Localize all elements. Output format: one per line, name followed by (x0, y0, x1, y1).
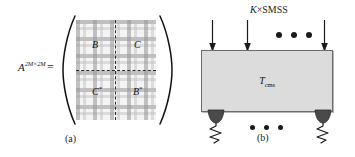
structure-block: Tcms (201, 50, 333, 112)
matrix-block-label-top-left: B (92, 40, 98, 50)
matrix-equation-label: A2M×2M (18, 60, 45, 73)
spring-support-icon (206, 109, 226, 145)
load-arrow-ellipsis (276, 30, 312, 40)
spring-support-icon (313, 109, 333, 145)
matrix-block-label-bottom-right: B* (133, 86, 143, 97)
figure-container: A2M×2M = B C C* B* (a) K×SMSS (0, 0, 355, 157)
equals-sign: = (47, 60, 54, 75)
load-arrow-down-icon (208, 20, 217, 52)
ellipsis-dot (276, 32, 282, 38)
block-letter: B (92, 39, 98, 50)
matrix-horizontal-partition-dashed (76, 70, 156, 71)
load-source: ×SMSS (257, 4, 288, 15)
panel-a-block-matrix: A2M×2M = B C C* B* (a) (0, 0, 180, 157)
load-arrow-down-icon (243, 20, 252, 52)
matrix-block-label-top-right: C (134, 40, 141, 50)
ellipsis-dot (278, 125, 283, 130)
panel-b-structure-diagram: K×SMSS Tcms (180, 0, 355, 157)
right-parenthesis-icon (157, 14, 173, 126)
matrix-dimension-superscript: 2M×2M (25, 60, 46, 67)
ellipsis-dot (264, 125, 269, 130)
caption-panel-b: (b) (257, 132, 269, 143)
structure-subscript: cms (265, 81, 275, 88)
block-star: * (99, 85, 103, 93)
ellipsis-dot (291, 32, 297, 38)
matrix-block-label-bottom-left: C* (92, 86, 102, 97)
support-ellipsis (250, 123, 283, 131)
ellipsis-dot (306, 32, 312, 38)
load-multiplier: K (250, 4, 257, 15)
structure-label: Tcms (259, 75, 274, 88)
block-letter: C (92, 86, 99, 97)
matrix-symbol: A (18, 61, 25, 73)
ellipsis-dot (250, 125, 255, 130)
caption-panel-a: (a) (65, 133, 76, 144)
load-label: K×SMSS (250, 4, 288, 15)
load-arrow-down-icon (320, 20, 329, 52)
block-letter: C (134, 39, 141, 50)
block-star: * (139, 85, 143, 93)
